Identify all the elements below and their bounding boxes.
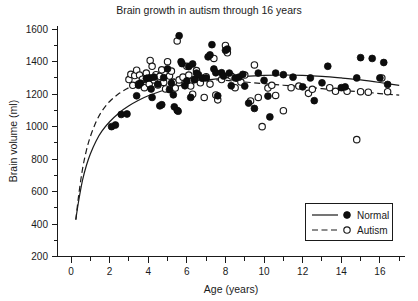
data-point-normal bbox=[137, 80, 144, 87]
series-normal bbox=[108, 32, 391, 130]
data-point-normal bbox=[214, 92, 221, 99]
data-point-autism bbox=[259, 123, 265, 129]
data-point-normal bbox=[307, 75, 314, 82]
data-point-normal bbox=[158, 101, 165, 108]
data-point-normal bbox=[226, 70, 233, 77]
data-point-normal bbox=[342, 83, 349, 90]
data-point-normal bbox=[124, 111, 131, 118]
data-point-normal bbox=[311, 97, 318, 104]
data-point-autism bbox=[327, 84, 333, 90]
y-tick-label: 1400 bbox=[26, 56, 49, 67]
data-point-autism bbox=[357, 89, 363, 95]
x-tick-label: 4 bbox=[145, 266, 151, 277]
chart-legend[interactable]: Normal Autism bbox=[306, 204, 393, 241]
data-point-normal bbox=[160, 74, 167, 81]
data-point-normal bbox=[324, 63, 331, 70]
data-point-autism bbox=[164, 59, 170, 65]
series-autism bbox=[126, 38, 391, 143]
data-point-autism bbox=[201, 94, 207, 100]
y-tick-label: 1200 bbox=[26, 89, 49, 100]
x-axis-title: Age (years) bbox=[204, 283, 258, 295]
data-point-normal bbox=[377, 75, 384, 82]
data-point-autism bbox=[251, 62, 257, 68]
data-points-group bbox=[108, 32, 391, 142]
data-point-normal bbox=[241, 83, 248, 90]
data-point-normal bbox=[280, 71, 287, 78]
data-point-autism bbox=[280, 108, 286, 114]
y-tick-label: 800 bbox=[31, 154, 48, 165]
data-point-autism bbox=[384, 89, 390, 95]
data-point-normal bbox=[353, 75, 360, 82]
data-point-normal bbox=[170, 91, 177, 98]
data-point-autism bbox=[309, 86, 315, 92]
data-point-normal bbox=[209, 41, 216, 48]
x-tick-label: 2 bbox=[107, 266, 113, 277]
data-point-normal bbox=[176, 32, 183, 39]
x-tick-label: 10 bbox=[259, 266, 271, 277]
data-point-normal bbox=[164, 65, 171, 72]
data-point-normal bbox=[380, 59, 387, 66]
data-point-normal bbox=[148, 86, 155, 93]
data-point-normal bbox=[187, 94, 194, 101]
legend-marker-autism bbox=[344, 227, 350, 233]
data-point-normal bbox=[357, 54, 364, 61]
brain-growth-scatter-chart: Brain growth in autism through 16 years … bbox=[0, 0, 418, 301]
y-axis-title: Brain volume (ml) bbox=[7, 100, 19, 182]
data-point-normal bbox=[179, 60, 186, 67]
legend-label-normal: Normal bbox=[357, 210, 389, 221]
y-tick-label: 600 bbox=[31, 186, 48, 197]
data-point-autism bbox=[149, 63, 155, 69]
chart-title: Brain growth in autism through 16 years bbox=[116, 4, 302, 16]
data-point-normal bbox=[272, 70, 279, 77]
x-axis-ticks: 0246810121416 bbox=[68, 257, 399, 278]
data-point-normal bbox=[251, 105, 258, 112]
data-point-normal bbox=[207, 51, 214, 58]
data-point-normal bbox=[133, 92, 140, 99]
data-point-normal bbox=[224, 46, 231, 53]
y-tick-label: 1600 bbox=[26, 24, 49, 35]
legend-label-autism: Autism bbox=[357, 225, 388, 236]
data-point-normal bbox=[265, 93, 272, 100]
x-tick-label: 14 bbox=[336, 266, 348, 277]
x-tick-label: 6 bbox=[184, 266, 190, 277]
data-point-autism bbox=[272, 92, 278, 98]
data-point-normal bbox=[384, 81, 391, 88]
data-point-normal bbox=[228, 82, 235, 89]
chart-figure: Brain growth in autism through 16 years … bbox=[0, 0, 418, 301]
data-point-normal bbox=[189, 61, 196, 68]
data-point-autism bbox=[207, 81, 213, 87]
data-point-normal bbox=[203, 75, 210, 82]
y-axis-ticks: 2004006008001000120014001600 bbox=[26, 24, 58, 262]
chart-title-group: Brain growth in autism through 16 years bbox=[116, 4, 302, 16]
data-point-normal bbox=[175, 108, 182, 115]
data-point-normal bbox=[245, 100, 252, 107]
y-tick-label: 1000 bbox=[26, 121, 49, 132]
y-tick-label: 200 bbox=[31, 251, 48, 262]
y-tick-label: 400 bbox=[31, 219, 48, 230]
x-tick-label: 8 bbox=[223, 266, 229, 277]
data-point-autism bbox=[269, 82, 275, 88]
data-point-autism bbox=[365, 89, 371, 95]
data-point-normal bbox=[151, 74, 158, 81]
data-point-normal bbox=[239, 71, 246, 78]
legend-marker-normal bbox=[344, 212, 351, 219]
data-point-normal bbox=[183, 77, 190, 84]
x-tick-label: 16 bbox=[374, 266, 386, 277]
data-point-normal bbox=[154, 81, 161, 88]
data-point-autism bbox=[354, 136, 360, 142]
fit-curves-group bbox=[76, 75, 399, 220]
data-point-normal bbox=[261, 77, 268, 84]
data-point-normal bbox=[149, 94, 156, 101]
data-point-normal bbox=[290, 74, 297, 81]
fit-curve-autism bbox=[76, 79, 399, 220]
data-point-autism bbox=[288, 84, 294, 90]
data-point-normal bbox=[299, 83, 306, 90]
data-point-normal bbox=[266, 114, 273, 121]
data-point-normal bbox=[112, 122, 119, 129]
data-point-autism bbox=[255, 94, 261, 100]
x-tick-label: 0 bbox=[68, 266, 74, 277]
fit-curve-normal bbox=[76, 75, 399, 219]
data-point-normal bbox=[168, 80, 175, 87]
data-point-normal bbox=[255, 70, 262, 77]
data-point-normal bbox=[369, 55, 376, 62]
